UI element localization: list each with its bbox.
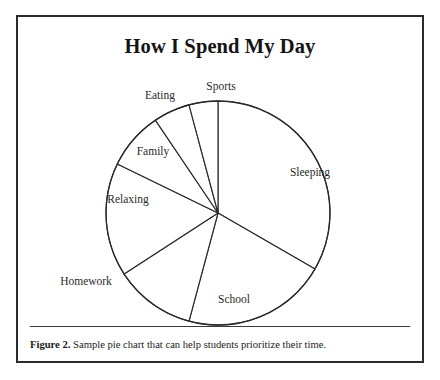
pie-slice-group — [106, 101, 330, 325]
caption-divider — [30, 326, 410, 327]
figure-inner: How I Spend My Day SleepingSchoolHomewor… — [18, 17, 422, 361]
pie-label-family: Family — [137, 146, 170, 158]
figure-caption: Figure 2. Sample pie chart that can help… — [30, 338, 412, 351]
pie-label-school: School — [218, 294, 250, 306]
caption-figure-number: Figure 2. — [30, 339, 70, 350]
pie-label-relaxing: Relaxing — [107, 194, 149, 206]
pie-label-eating: Eating — [145, 90, 175, 102]
pie-label-homework: Homework — [60, 276, 112, 288]
pie-chart: SleepingSchoolHomeworkRelaxingFamilyEati… — [18, 17, 426, 365]
figure-frame: How I Spend My Day SleepingSchoolHomewor… — [16, 15, 424, 363]
pie-label-sleeping: Sleeping — [290, 167, 330, 179]
pie-label-sports: Sports — [206, 81, 235, 93]
pie-chart-svg — [18, 17, 426, 365]
caption-description: Sample pie chart that can help students … — [70, 339, 326, 350]
